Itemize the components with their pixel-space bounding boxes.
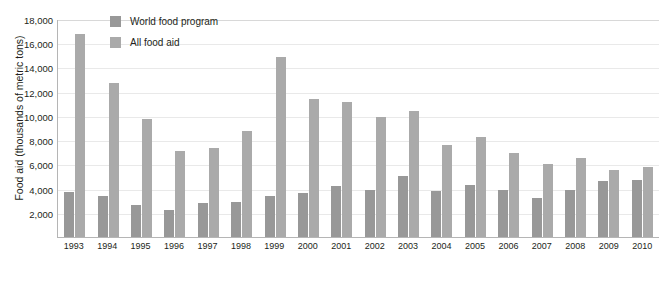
- bar-group: [425, 20, 458, 237]
- y-axis-tick-label: 16,000: [5, 39, 53, 50]
- bar-group: [525, 20, 558, 237]
- bar: [142, 119, 152, 237]
- x-axis-tick-label: 1999: [258, 241, 291, 251]
- bar: [498, 190, 508, 237]
- bar-chart: Food aid (thousands of metric tons) 18,0…: [0, 0, 667, 281]
- bar: [643, 167, 653, 237]
- bar: [131, 205, 141, 237]
- bar: [465, 185, 475, 237]
- x-axis-tick-label: 2007: [525, 241, 558, 251]
- bar: [309, 99, 319, 237]
- x-axis-tick-label: 1997: [191, 241, 224, 251]
- y-axis-tick-label: 12,000: [5, 87, 53, 98]
- x-axis-tick-labels: 1993199419951996199719981999200020012002…: [57, 241, 659, 251]
- bar-group: [459, 20, 492, 237]
- bar: [109, 83, 119, 237]
- bar: [265, 196, 275, 237]
- x-axis-tick-label: 2008: [559, 241, 592, 251]
- bar: [442, 145, 452, 237]
- x-axis-tick-label: 2006: [492, 241, 525, 251]
- legend-item: World food program: [110, 16, 218, 27]
- bar: [331, 186, 341, 237]
- bar: [98, 196, 108, 237]
- bar: [398, 176, 408, 237]
- bar: [365, 190, 375, 237]
- x-axis-tick-label: 1993: [57, 241, 90, 251]
- y-axis-tick-label: 10,000: [5, 111, 53, 122]
- bar: [75, 34, 85, 237]
- bar: [543, 164, 553, 237]
- bar-group: [58, 20, 91, 237]
- bar: [409, 111, 419, 237]
- bar: [609, 170, 619, 237]
- bar: [431, 191, 441, 237]
- bar: [175, 151, 185, 237]
- y-axis-tick-label: 6,000: [5, 160, 53, 171]
- x-axis-tick-label: 1995: [124, 241, 157, 251]
- x-axis-tick-label: 1994: [90, 241, 123, 251]
- y-axis-tick-label: 8,000: [5, 136, 53, 147]
- bar: [209, 148, 219, 237]
- bar: [298, 193, 308, 237]
- x-axis-tick-label: 1996: [157, 241, 190, 251]
- x-axis-tick-label: 2001: [325, 241, 358, 251]
- legend-label: All food aid: [130, 37, 179, 48]
- x-axis-tick-label: 2000: [291, 241, 324, 251]
- y-axis-tick-label: 14,000: [5, 63, 53, 74]
- bar: [598, 181, 608, 237]
- y-axis-tick-label: 18,000: [5, 15, 53, 26]
- legend-swatch-icon: [110, 16, 121, 27]
- y-axis-tick-label: 2,000: [5, 208, 53, 219]
- bar: [198, 203, 208, 237]
- x-axis-tick-label: 2002: [358, 241, 391, 251]
- bar: [532, 198, 542, 237]
- x-axis-tick-label: 1998: [224, 241, 257, 251]
- bar-group: [626, 20, 659, 237]
- bar: [242, 131, 252, 237]
- bar: [476, 137, 486, 237]
- bar: [632, 180, 642, 237]
- bar: [164, 210, 174, 237]
- bar: [576, 158, 586, 237]
- bar-group: [359, 20, 392, 237]
- x-axis-tick-label: 2010: [625, 241, 658, 251]
- bar-group: [225, 20, 258, 237]
- x-axis-tick-label: 2003: [391, 241, 424, 251]
- bar-group: [492, 20, 525, 237]
- bar: [342, 102, 352, 237]
- bar-group: [292, 20, 325, 237]
- bar: [509, 153, 519, 237]
- y-axis-tick-labels: 18,00016,00014,00012,00010,0008,0006,000…: [3, 20, 53, 238]
- y-axis-tick-label: 4,000: [5, 184, 53, 195]
- x-axis-tick-label: 2004: [425, 241, 458, 251]
- legend-label: World food program: [130, 16, 218, 27]
- bar: [565, 190, 575, 237]
- bar: [276, 57, 286, 237]
- bar-group: [258, 20, 291, 237]
- x-axis-tick-label: 2009: [592, 241, 625, 251]
- legend-item: All food aid: [110, 37, 218, 48]
- bar: [64, 192, 74, 237]
- chart-legend: World food programAll food aid: [110, 16, 218, 58]
- x-axis-tick-label: 2005: [458, 241, 491, 251]
- bar-group: [392, 20, 425, 237]
- bar-group: [592, 20, 625, 237]
- bar: [231, 202, 241, 237]
- bar-group: [559, 20, 592, 237]
- bar: [376, 117, 386, 237]
- legend-swatch-icon: [110, 37, 121, 48]
- bar-group: [325, 20, 358, 237]
